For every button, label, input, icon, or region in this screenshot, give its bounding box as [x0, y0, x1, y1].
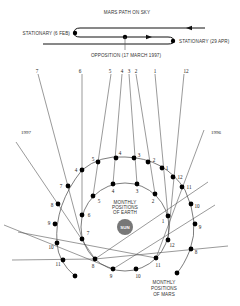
sight-label-5: 5	[109, 68, 112, 74]
svg-text:4: 4	[112, 188, 115, 194]
svg-text:5: 5	[98, 198, 101, 204]
svg-text:11: 11	[56, 261, 61, 267]
mars-retrograde-diagram: MARS PATH ON SKY STATIONARY (6 FEB) STAT…	[0, 0, 240, 306]
earth-caption: MONTHLY POSITIONS OF EARTH	[112, 200, 138, 215]
svg-text:4: 4	[75, 167, 78, 173]
svg-text:5: 5	[92, 156, 95, 162]
svg-text:9: 9	[110, 273, 113, 279]
svg-text:11: 11	[156, 262, 161, 268]
svg-text:10: 10	[48, 244, 54, 250]
mars-caption: MONTHLY POSITIONS OF MARS	[151, 280, 177, 297]
svg-text:7: 7	[87, 230, 90, 236]
svg-text:9: 9	[199, 224, 202, 230]
svg-text:9: 9	[48, 220, 51, 226]
sight-label-12: 12	[183, 68, 189, 74]
sight-label-4: 4	[121, 68, 124, 74]
svg-text:3: 3	[136, 188, 139, 194]
svg-text:10: 10	[194, 203, 200, 209]
opposition-label: OPPOSITION (17 MARCH 1997)	[91, 53, 162, 58]
svg-text:4: 4	[119, 150, 122, 156]
svg-text:12: 12	[177, 174, 183, 180]
svg-text:8: 8	[51, 202, 54, 208]
svg-text:1: 1	[166, 165, 169, 171]
svg-text:1: 1	[162, 218, 165, 224]
sight-line-labels: 7 6 5 4 3 2 1 12	[36, 68, 189, 74]
sight-label-2: 2	[135, 68, 138, 74]
svg-text:POSITIONS: POSITIONS	[151, 286, 177, 291]
svg-text:2: 2	[152, 198, 155, 204]
svg-text:OF MARS: OF MARS	[153, 292, 175, 297]
stationary-point-feb	[73, 31, 77, 35]
stationary-feb-label: STATIONARY (6 FEB)	[23, 31, 71, 36]
svg-text:10: 10	[135, 273, 141, 279]
svg-text:8: 8	[195, 249, 198, 255]
sight-label-6: 6	[79, 68, 82, 74]
year-label-1997: 1997	[21, 130, 32, 135]
svg-text:6: 6	[88, 212, 91, 218]
sight-lines	[4, 74, 228, 269]
sky-path-title: MARS PATH ON SKY	[104, 10, 150, 15]
svg-text:7: 7	[60, 183, 63, 189]
svg-text:11: 11	[187, 184, 192, 190]
stationary-apr-label: STATIONARY (29 APR)	[179, 39, 230, 44]
svg-text:3: 3	[138, 152, 141, 158]
svg-text:MONTHLY: MONTHLY	[153, 280, 176, 285]
stationary-point-apr	[171, 39, 175, 43]
arrow-left-icon	[186, 26, 192, 30]
svg-text:12: 12	[169, 242, 175, 248]
year-label-1996: 1996	[211, 130, 222, 135]
svg-text:OF EARTH: OF EARTH	[113, 210, 137, 215]
sight-label-3: 3	[128, 68, 131, 74]
svg-text:8: 8	[92, 263, 95, 269]
sun-label: SUN	[120, 225, 129, 230]
arrow-right-icon	[146, 35, 152, 39]
mars-sky-path	[43, 26, 205, 50]
svg-text:2: 2	[153, 157, 156, 163]
sight-label-1: 1	[154, 68, 157, 74]
sight-label-7: 7	[36, 68, 39, 74]
